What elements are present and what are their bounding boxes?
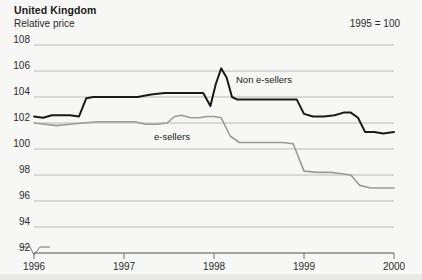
y-axis-tick-label: 104: [4, 86, 30, 97]
y-axis-tick-label: 100: [4, 138, 30, 149]
y-axis-tick-label: 106: [4, 60, 30, 71]
y-axis-tick-label: 96: [4, 190, 30, 201]
chart-container: United Kingdom Relative price 1995 = 100…: [0, 0, 422, 280]
y-axis-tick-label: 94: [4, 216, 30, 227]
y-axis-tick-label: 92: [4, 242, 30, 253]
x-axis-tick-label: 1996: [14, 261, 54, 272]
y-axis-tick-label: 108: [4, 34, 30, 45]
series-line-non-esellers: [34, 68, 394, 133]
y-axis-tick-label: 102: [4, 112, 30, 123]
line-chart-plot: [0, 0, 422, 280]
gridlines: [34, 45, 394, 253]
series-label-non-esellers: Non e-sellers: [234, 74, 294, 85]
footer-bar: [0, 274, 422, 280]
y-axis-tick-label: 98: [4, 164, 30, 175]
x-axis-tick-label: 2000: [374, 261, 414, 272]
x-axis-ticks: [34, 253, 394, 259]
series-label-esellers: e-sellers: [152, 131, 192, 142]
x-axis-tick-label: 1997: [104, 261, 144, 272]
x-axis-tick-label: 1998: [194, 261, 234, 272]
x-axis-tick-label: 1999: [284, 261, 324, 272]
series-line-esellers: [34, 115, 394, 188]
